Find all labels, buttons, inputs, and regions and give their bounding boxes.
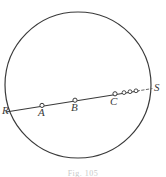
main-circle	[5, 12, 151, 158]
geometry-canvas	[0, 0, 166, 177]
ellipsis-marker-1	[122, 91, 126, 95]
point-label-a: A	[38, 107, 45, 118]
point-label-r: R	[2, 105, 9, 116]
ellipsis-marker-3	[134, 89, 138, 93]
point-label-s: S	[154, 82, 160, 93]
ellipsis-marker-2	[128, 90, 132, 94]
figure-caption: Fig. 105	[0, 170, 166, 177]
secant-dashed-extension	[137, 89, 152, 91]
point-label-c: C	[110, 96, 117, 107]
point-label-b: B	[71, 102, 78, 113]
geometry-figure: R A B C S Fig. 105	[0, 0, 166, 177]
